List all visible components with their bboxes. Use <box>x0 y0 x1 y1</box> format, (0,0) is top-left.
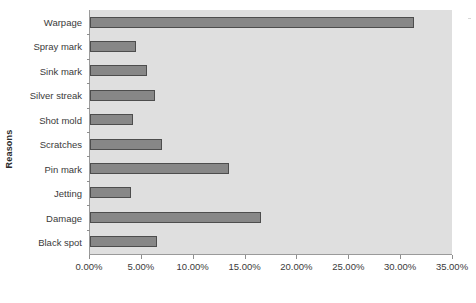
bar-row <box>90 83 452 107</box>
x-axis-tick <box>193 255 194 259</box>
category-label: Black spot <box>18 231 86 256</box>
category-label: Pin mark <box>18 157 86 182</box>
x-axis-tick-labels: 0.00%5.00%10.00%15.00%20.00%25.00%30.00%… <box>89 261 452 275</box>
x-axis-tick <box>348 255 349 259</box>
bar-chart-screenshot: Reasons WarpageSpray markSink markSilver… <box>0 0 476 303</box>
x-axis-tick <box>89 255 90 259</box>
x-axis-tick-label: 10.00% <box>177 261 209 272</box>
bar[interactable] <box>90 41 136 52</box>
x-axis-tick-label: 15.00% <box>228 261 260 272</box>
x-axis-tick <box>400 255 401 259</box>
x-axis-tick-label: 0.00% <box>76 261 103 272</box>
x-axis-tick-label: 35.00% <box>436 261 468 272</box>
x-axis-tick-label: 20.00% <box>280 261 312 272</box>
x-axis-tick-label: 25.00% <box>332 261 364 272</box>
decorative-corner-mark <box>468 18 471 19</box>
bar[interactable] <box>90 90 155 101</box>
category-label-column: WarpageSpray markSink markSilver streakS… <box>18 10 86 255</box>
category-label: Shot mold <box>18 108 86 133</box>
plot-inner <box>90 10 452 254</box>
bar[interactable] <box>90 236 157 247</box>
bar[interactable] <box>90 139 162 150</box>
bar-row <box>90 181 452 205</box>
bar[interactable] <box>90 163 229 174</box>
bar-row <box>90 34 452 58</box>
bar-row <box>90 156 452 180</box>
bar[interactable] <box>90 114 133 125</box>
category-label: Scratches <box>18 133 86 158</box>
bar-row <box>90 205 452 229</box>
category-label: Sink mark <box>18 59 86 84</box>
bar-row <box>90 230 452 254</box>
category-label: Warpage <box>18 10 86 35</box>
bar-row <box>90 132 452 156</box>
y-axis-title-label: Reasons <box>4 130 14 169</box>
x-axis-tick <box>245 255 246 259</box>
x-axis-tick <box>296 255 297 259</box>
category-label: Jetting <box>18 182 86 207</box>
category-label: Damage <box>18 206 86 231</box>
category-label: Spray mark <box>18 35 86 60</box>
x-axis-tick-label: 30.00% <box>384 261 416 272</box>
bar[interactable] <box>90 187 131 198</box>
bar-row <box>90 10 452 34</box>
bar[interactable] <box>90 212 261 223</box>
category-label: Silver streak <box>18 84 86 109</box>
bar-row <box>90 59 452 83</box>
plot-area <box>89 10 452 255</box>
bar[interactable] <box>90 17 414 28</box>
bar-row <box>90 108 452 132</box>
x-axis-tick <box>452 255 453 259</box>
x-axis-tick-label: 5.00% <box>127 261 154 272</box>
x-axis-tick <box>141 255 142 259</box>
y-axis-title: Reasons <box>0 104 18 194</box>
bar[interactable] <box>90 65 147 76</box>
